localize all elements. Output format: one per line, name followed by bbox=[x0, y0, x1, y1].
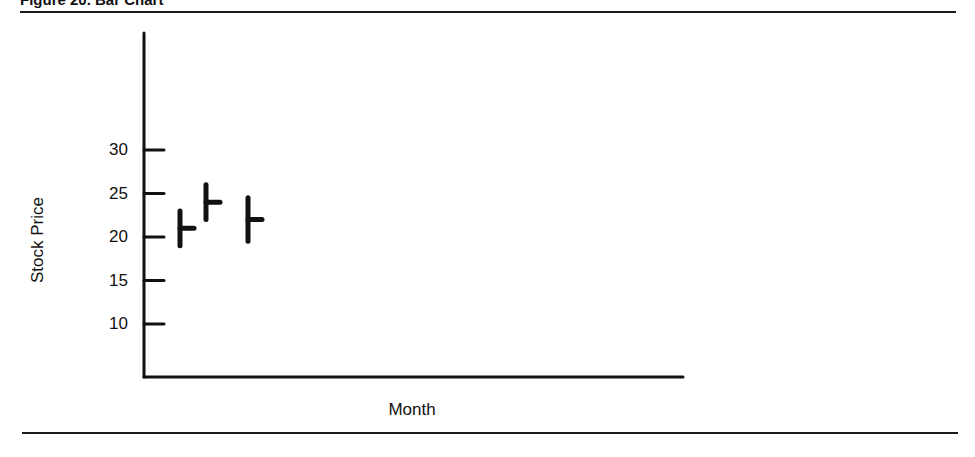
chart-plot-area bbox=[0, 0, 975, 457]
x-axis-label: Month bbox=[388, 400, 435, 420]
stock-price-bar-chart: 1015202530 Stock Price Month bbox=[0, 0, 975, 457]
y-tick-label: 10 bbox=[109, 314, 128, 334]
bottom-rule bbox=[22, 432, 958, 434]
y-tick-label: 15 bbox=[109, 271, 128, 291]
y-tick-label: 30 bbox=[109, 140, 128, 160]
y-axis-label: Stock Price bbox=[28, 197, 48, 283]
y-tick-label: 25 bbox=[109, 184, 128, 204]
y-tick-label: 20 bbox=[109, 227, 128, 247]
